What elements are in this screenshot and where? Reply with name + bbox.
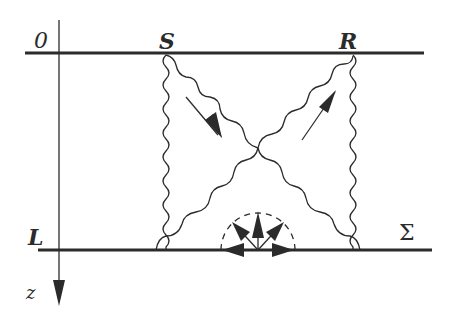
z-axis-label: z bbox=[26, 284, 35, 302]
wave-path-receiver-vertical bbox=[350, 55, 356, 250]
receiver-label: R bbox=[339, 30, 357, 52]
z-axis bbox=[53, 20, 65, 306]
source-label: S bbox=[159, 30, 175, 52]
wave-path-source-to-crossing bbox=[166, 55, 258, 148]
depth-label: L bbox=[28, 226, 43, 248]
origin-label: 0 bbox=[34, 30, 48, 52]
scattering-diagram bbox=[0, 0, 457, 320]
z-axis-arrow-icon bbox=[53, 280, 65, 306]
wave-path-source-vertical bbox=[163, 55, 169, 250]
surface-label: Σ bbox=[399, 222, 415, 244]
scattering-dome bbox=[221, 212, 295, 257]
scatter-arrow-left-icon bbox=[222, 243, 244, 257]
reflected-arrowhead-icon bbox=[319, 90, 336, 113]
scatter-arrow-up-icon bbox=[252, 212, 264, 238]
scatter-arrow-right-icon bbox=[272, 243, 294, 257]
